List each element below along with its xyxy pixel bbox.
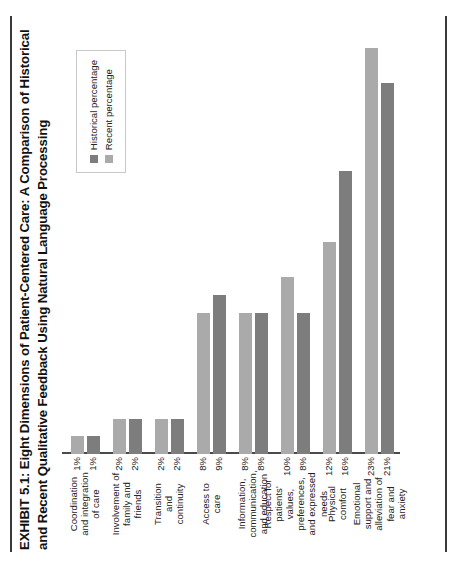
category-label-line: friends — [132, 458, 143, 550]
bar-historical — [297, 313, 310, 454]
bar-recent — [197, 313, 210, 454]
category-label-line: anxiety — [396, 458, 407, 550]
exhibit-page: EXHIBIT 5.1: Eight Dimensions of Patient… — [0, 0, 457, 568]
bar-wrap: 1% — [71, 436, 84, 454]
category-label-line: care — [211, 458, 222, 550]
rotated-page-wrapper: EXHIBIT 5.1: Eight Dimensions of Patient… — [0, 0, 457, 568]
bar-wrap: 2% — [113, 419, 126, 454]
top-divider-rule — [10, 16, 12, 552]
category-label-line: Emotional — [351, 458, 362, 550]
bar-wrap: 1% — [87, 436, 100, 454]
bar-historical — [171, 419, 184, 454]
bar-row: 23% — [365, 16, 378, 454]
category-label-line: fear and — [385, 458, 396, 550]
bar-historical — [255, 313, 268, 454]
bar-chart: 23%21%12%16%10%8%8%8%8%9%2%2%2%2%1%1% Em… — [62, 16, 422, 550]
bar-wrap: 2% — [129, 419, 142, 454]
bar-historical — [381, 83, 394, 454]
bar-recent — [155, 419, 168, 454]
category-label-line: Information, — [236, 458, 247, 550]
bar-wrap: 2% — [155, 419, 168, 454]
category-label: Physicalcomfort — [326, 458, 348, 550]
category-label-line: Access to — [200, 458, 211, 550]
category-label-line: comfort — [337, 458, 348, 550]
bar-wrap: 2% — [171, 419, 184, 454]
bar-historical — [87, 436, 100, 454]
bar-row: 16% — [339, 16, 352, 454]
bar-group: 2%2% — [148, 16, 190, 454]
bar-recent — [281, 277, 294, 454]
exhibit-title-block: EXHIBIT 5.1: Eight Dimensions of Patient… — [16, 16, 52, 550]
bottom-divider-rule — [445, 16, 447, 552]
category-label-line: Transition — [152, 458, 163, 550]
category-label: Access tocare — [200, 458, 222, 550]
bar-historical — [213, 295, 226, 454]
bar-row: 8% — [297, 16, 310, 454]
bar-group: 12%16% — [316, 16, 358, 454]
bar-row: 8% — [197, 16, 210, 454]
bar-row: 2% — [129, 16, 142, 454]
category-label-line: family and — [121, 458, 132, 550]
bar-recent — [323, 242, 336, 454]
category-label-line: needs — [318, 458, 329, 550]
category-label-line: patients' — [273, 458, 284, 550]
bar-group: 23%21% — [358, 16, 400, 454]
category-label: Respect forpatients'values,preferences,a… — [262, 458, 329, 550]
category-label-line: of care — [90, 458, 101, 550]
category-label-line: support and — [362, 458, 373, 550]
bar-historical — [339, 171, 352, 454]
bar-row: 2% — [171, 16, 184, 454]
chart-legend: Historical percentageRecent percentage — [76, 50, 126, 173]
bar-row: 9% — [213, 16, 226, 454]
legend-label: Recent percentage — [103, 69, 114, 150]
bar-recent — [365, 48, 378, 454]
category-label-line: continuity — [174, 458, 185, 550]
legend-swatch-icon — [90, 155, 98, 163]
bar-group: 10%8% — [274, 16, 316, 454]
category-label: Transitionandcontinuity — [152, 458, 186, 550]
category-label-line: communication, — [247, 458, 258, 550]
bar-wrap: 8% — [197, 313, 210, 454]
bar-wrap: 9% — [213, 295, 226, 454]
bar-wrap: 16% — [339, 171, 352, 454]
category-label-line: and — [163, 458, 174, 550]
category-label: Emotionalsupport andalleviation offear a… — [351, 458, 407, 550]
legend-swatch-icon — [105, 155, 113, 163]
category-label-line: and expressed — [306, 458, 317, 550]
bar-recent — [113, 419, 126, 454]
bar-recent — [71, 436, 84, 454]
bar-wrap: 12% — [323, 242, 336, 454]
bar-group: 8%8% — [232, 16, 274, 454]
category-label-line: preferences, — [295, 458, 306, 550]
legend-label: Historical percentage — [88, 60, 99, 150]
page-title: EXHIBIT 5.1: Eight Dimensions of Patient… — [16, 16, 52, 550]
category-label: Involvement offamily andfriends — [110, 458, 144, 550]
category-label-line: Coordination — [68, 458, 79, 550]
bar-wrap: 23% — [365, 48, 378, 454]
bar-row: 8% — [239, 16, 252, 454]
bar-wrap: 21% — [381, 83, 394, 454]
category-label: Information,communication,and education — [236, 458, 270, 550]
bar-recent — [239, 313, 252, 454]
bar-wrap: 8% — [297, 313, 310, 454]
bar-wrap: 8% — [239, 313, 252, 454]
category-label-line: Involvement of — [110, 458, 121, 550]
category-label-line: values, — [284, 458, 295, 550]
bar-row: 10% — [281, 16, 294, 454]
category-label: Coordinationand integrationof care — [68, 458, 102, 550]
bar-group: 8%9% — [190, 16, 232, 454]
bar-row: 21% — [381, 16, 394, 454]
legend-item[interactable]: Recent percentage — [103, 60, 114, 163]
bar-row: 12% — [323, 16, 336, 454]
category-label-line: and education — [258, 458, 269, 550]
bar-historical — [129, 419, 142, 454]
legend-item[interactable]: Historical percentage — [88, 60, 99, 163]
category-label-line: alleviation of — [373, 458, 384, 550]
bar-row: 2% — [155, 16, 168, 454]
bar-row: 8% — [255, 16, 268, 454]
bar-wrap: 8% — [255, 313, 268, 454]
bar-wrap: 10% — [281, 277, 294, 454]
category-label-line: and integration — [79, 458, 90, 550]
